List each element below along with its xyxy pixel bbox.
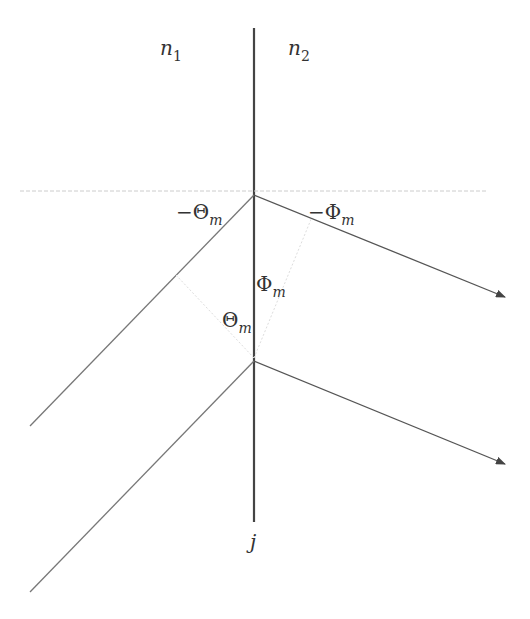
label-j: j (250, 530, 256, 554)
refraction-diagram: n1 n2 −Θm −Φm Φm Θm j (0, 0, 530, 619)
label-n1: n1 (160, 36, 182, 60)
label-theta: Θm (222, 308, 252, 332)
incident-ray-2 (30, 361, 254, 592)
diagram-lines (0, 0, 530, 619)
label-neg-theta: −Θm (176, 200, 222, 224)
refracted-ray-1 (254, 195, 505, 297)
label-phi: Φm (256, 272, 286, 296)
label-neg-phi: −Φm (308, 200, 354, 224)
refracted-ray-2 (254, 361, 505, 464)
label-n2: n2 (288, 36, 310, 60)
incident-ray-1 (30, 195, 254, 426)
